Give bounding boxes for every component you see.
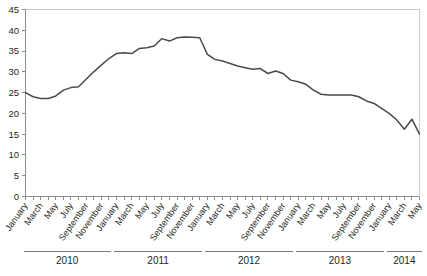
x-axis-tick-labels: JanuaryMarchMayJulySeptemberNovemberJanu… [3,201,424,243]
year-group-label: 2014 [393,255,416,266]
year-group-label: 2013 [329,255,352,266]
chart-canvas: 051015202530354045 JanuaryMarchMayJulySe… [0,0,427,276]
y-tick-label: 25 [8,87,19,98]
plot-frame [26,10,420,197]
y-tick-label: 40 [8,25,19,36]
x-tick-label: May [42,201,60,221]
x-tick-label: May [133,201,151,221]
line-chart: 051015202530354045 JanuaryMarchMayJulySe… [0,0,427,276]
year-group-label: 2010 [56,255,79,266]
y-tick-label: 5 [14,170,19,181]
y-axis-tick-labels: 051015202530354045 [8,4,19,202]
y-tick-label: 15 [8,129,19,140]
x-tick-label: May [406,201,424,221]
y-tick-label: 35 [8,45,19,56]
data-series-line [26,37,420,134]
x-tick-label: May [315,201,333,221]
x-tick-label: May [224,201,242,221]
y-tick-label: 30 [8,66,19,77]
y-tick-label: 45 [8,4,19,15]
year-group-label: 2012 [238,255,261,266]
y-tick-label: 20 [8,108,19,119]
year-group-label: 2011 [147,255,169,266]
year-group-axis: 20102011201220132014 [24,252,422,266]
x-axis-ticks [26,197,420,201]
y-tick-label: 10 [8,149,19,160]
y-tick-label: 0 [14,191,19,202]
y-axis-ticks [22,10,26,197]
